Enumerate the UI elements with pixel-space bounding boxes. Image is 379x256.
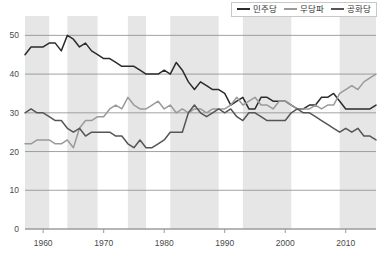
line-chart: 01020304050196019701980199020002010 민주당 … bbox=[0, 0, 379, 256]
administration-band-5 bbox=[340, 16, 376, 229]
chart-canvas: 01020304050196019701980199020002010 bbox=[0, 0, 379, 256]
administration-band-1 bbox=[67, 16, 97, 229]
y-tick-label-10: 10 bbox=[10, 185, 20, 195]
x-tick-label-1990: 1990 bbox=[215, 238, 234, 248]
legend-label-independent: 무당파 bbox=[300, 5, 324, 14]
x-tick-label-1970: 1970 bbox=[94, 238, 113, 248]
y-tick-label-0: 0 bbox=[14, 224, 19, 234]
legend-swatch-independent bbox=[284, 8, 297, 10]
administration-band-2 bbox=[128, 16, 146, 229]
x-tick-label-1980: 1980 bbox=[155, 238, 174, 248]
legend-label-republican: 공화당 bbox=[347, 5, 371, 14]
x-tick-label-1960: 1960 bbox=[34, 238, 53, 248]
legend-item-democrat[interactable]: 민주당 bbox=[237, 5, 277, 14]
administration-band-0 bbox=[25, 16, 49, 229]
legend-swatch-republican bbox=[331, 8, 344, 10]
legend-label-democrat: 민주당 bbox=[253, 5, 277, 14]
administration-band-3 bbox=[170, 16, 218, 229]
y-tick-label-50: 50 bbox=[10, 30, 20, 40]
x-tick-label-2010: 2010 bbox=[336, 238, 355, 248]
x-tick-label-2000: 2000 bbox=[276, 238, 295, 248]
y-tick-label-40: 40 bbox=[10, 69, 20, 79]
legend-swatch-democrat bbox=[237, 8, 250, 10]
legend-item-independent[interactable]: 무당파 bbox=[284, 5, 324, 14]
legend-item-republican[interactable]: 공화당 bbox=[331, 5, 371, 14]
y-tick-label-30: 30 bbox=[10, 108, 20, 118]
administration-band-4 bbox=[243, 16, 291, 229]
chart-legend: 민주당 무당파 공화당 bbox=[231, 2, 377, 17]
y-tick-label-20: 20 bbox=[10, 147, 20, 157]
